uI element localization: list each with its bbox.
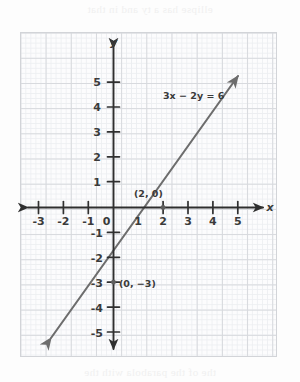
y-tick-label--4: -4 (91, 302, 104, 315)
x-tick-label-1: 1 (134, 215, 142, 228)
x-tick-label-0: 0 (103, 215, 111, 228)
x-tick-labels: -3 -2 -1 0 1 2 3 4 5 (32, 215, 241, 228)
x-intercept-point (161, 205, 166, 210)
y-tick-label--3: -3 (91, 277, 103, 290)
x-tick-label--2: -2 (57, 215, 69, 228)
x-axis-label: x (265, 201, 274, 214)
x-tick-label-4: 4 (209, 215, 217, 228)
y-tick-label-2: 2 (93, 151, 101, 164)
y-tick-label-1: 1 (93, 176, 101, 189)
y-tick-label-5: 5 (93, 76, 101, 89)
y-tick-label-4: 4 (93, 101, 101, 114)
x-tick-label--3: -3 (32, 215, 44, 228)
x-tick-label-3: 3 (184, 215, 192, 228)
x-tick-label-5: 5 (234, 215, 242, 228)
y-intercept-point (111, 280, 116, 285)
x-tick-label-2: 2 (159, 215, 167, 228)
y-tick-label--5: -5 (91, 327, 103, 340)
y-axis-label: y (110, 36, 118, 49)
equation-label: 3x − 2y = 6 (163, 90, 225, 101)
x-intercept-label: (2, 0) (134, 188, 163, 199)
y-tick-label--1: -1 (91, 227, 103, 240)
y-intercept-label: (0, −3) (119, 278, 156, 289)
y-tick-label--2: -2 (91, 252, 103, 265)
coordinate-graph: -3 -2 -1 0 1 2 3 4 5 5 4 3 2 1 -1 -2 -3 … (0, 0, 300, 382)
y-tick-label-3: 3 (93, 126, 101, 139)
